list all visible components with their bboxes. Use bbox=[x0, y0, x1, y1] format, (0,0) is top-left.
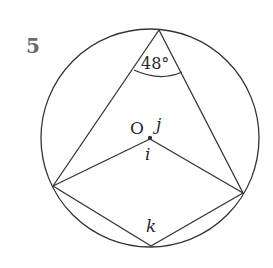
circle-theorem-diagram: 5 48° O j i k bbox=[0, 0, 273, 268]
question-number: 5 bbox=[26, 34, 40, 58]
chord-right-bottom bbox=[151, 193, 243, 246]
radius-left bbox=[53, 139, 150, 186]
angle-label-i: i bbox=[145, 144, 150, 164]
center-label-o: O bbox=[130, 118, 144, 138]
angle-label-j: j bbox=[152, 114, 162, 134]
center-point bbox=[148, 136, 152, 140]
angle-label-48: 48° bbox=[141, 54, 169, 73]
chord-left-bottom bbox=[53, 186, 151, 246]
angle-label-k: k bbox=[146, 216, 156, 236]
